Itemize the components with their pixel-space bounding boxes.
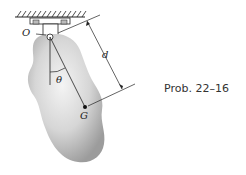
label-g: G [80, 110, 88, 121]
center-of-gravity-point [83, 105, 87, 109]
rigid-body [28, 34, 104, 162]
pendulum-figure: O θ G d [0, 0, 160, 175]
label-d: d [102, 49, 108, 60]
figure-caption: Prob. 22–16 [164, 82, 229, 95]
label-theta: θ [56, 74, 62, 85]
label-o: O [22, 27, 30, 38]
